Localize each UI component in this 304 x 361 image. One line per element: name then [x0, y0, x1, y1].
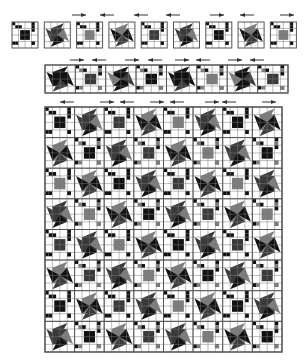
direction-arrow-icon	[205, 100, 219, 104]
direction-arrow-icon	[228, 58, 242, 62]
star-block	[75, 168, 105, 199]
ninepatch-block	[252, 138, 282, 169]
ninepatch-block	[75, 321, 105, 352]
star-block	[223, 138, 253, 169]
star-block	[104, 138, 134, 169]
star-block	[164, 260, 194, 291]
ninepatch-block	[193, 199, 223, 230]
star-block	[227, 65, 257, 93]
star-block	[223, 321, 253, 352]
ninepatch-block	[193, 321, 223, 352]
star-block	[134, 291, 164, 322]
ninepatch-block	[164, 107, 194, 138]
star-block	[193, 230, 223, 261]
ninepatch-block	[75, 65, 105, 93]
ninepatch-block	[270, 22, 296, 48]
star-block	[252, 291, 282, 322]
direction-arrow-icon	[148, 58, 162, 62]
ninepatch-block	[164, 291, 194, 322]
ninepatch-block	[206, 22, 232, 48]
direction-arrow-icon	[222, 100, 236, 104]
ninepatch-block	[223, 107, 253, 138]
top-row-blocks	[12, 22, 296, 48]
star-block	[109, 22, 135, 48]
ninepatch-block	[134, 260, 164, 291]
ninepatch-block	[104, 230, 134, 261]
ninepatch-block	[193, 138, 223, 169]
quilt-diagram	[0, 0, 304, 361]
ninepatch-block	[45, 230, 75, 261]
direction-arrow-icon	[92, 58, 106, 62]
star-block	[45, 65, 75, 93]
direction-arrow-icon	[72, 13, 86, 17]
sample-strip	[45, 65, 288, 93]
direction-arrow-icon	[100, 13, 114, 17]
star-block	[134, 168, 164, 199]
direction-arrow-icon	[262, 100, 276, 104]
direction-arrow-icon	[175, 58, 189, 62]
direction-arrow-icon	[100, 100, 114, 104]
star-block	[223, 199, 253, 230]
ninepatch-block	[12, 22, 38, 48]
ninepatch-block	[258, 65, 288, 93]
direction-arrow-icon	[120, 100, 134, 104]
star-block	[193, 107, 223, 138]
ninepatch-block	[193, 260, 223, 291]
star-block	[106, 65, 136, 93]
ninepatch-block	[197, 65, 227, 93]
star-block	[134, 230, 164, 261]
star-block	[238, 22, 264, 48]
star-block	[252, 107, 282, 138]
star-block	[104, 199, 134, 230]
star-block	[193, 168, 223, 199]
star-block	[174, 22, 200, 48]
direction-arrow-icon	[125, 58, 139, 62]
ninepatch-block	[164, 230, 194, 261]
direction-arrow-icon	[280, 13, 294, 17]
ninepatch-block	[223, 291, 253, 322]
star-block	[252, 168, 282, 199]
star-block	[75, 107, 105, 138]
ninepatch-block	[223, 230, 253, 261]
ninepatch-block	[75, 260, 105, 291]
ninepatch-block	[252, 199, 282, 230]
ninepatch-block	[164, 168, 194, 199]
ninepatch-block	[136, 65, 166, 93]
star-block	[164, 138, 194, 169]
ninepatch-block	[134, 138, 164, 169]
direction-arrow-icon	[170, 100, 184, 104]
ninepatch-block	[134, 321, 164, 352]
direction-arrow-icon	[60, 100, 74, 104]
direction-arrow-icon	[240, 13, 254, 17]
ninepatch-block	[75, 138, 105, 169]
star-block	[104, 260, 134, 291]
direction-arrow-icon	[250, 58, 264, 62]
direction-arrow-icon	[210, 13, 224, 17]
star-block	[164, 321, 194, 352]
star-block	[252, 230, 282, 261]
star-block	[167, 65, 197, 93]
ninepatch-block	[104, 107, 134, 138]
ninepatch-block	[252, 260, 282, 291]
direction-arrow-icon	[70, 58, 84, 62]
star-block	[44, 22, 70, 48]
star-block	[104, 321, 134, 352]
ninepatch-block	[104, 168, 134, 199]
star-block	[193, 291, 223, 322]
direction-arrow-icon	[196, 58, 210, 62]
ninepatch-block	[252, 321, 282, 352]
star-block	[134, 107, 164, 138]
ninepatch-block	[141, 22, 167, 48]
ninepatch-block	[223, 168, 253, 199]
ninepatch-block	[104, 291, 134, 322]
direction-arrow-icon	[134, 13, 148, 17]
star-block	[164, 199, 194, 230]
star-block	[223, 260, 253, 291]
star-block	[45, 199, 75, 230]
quilt-pattern-canvas	[0, 0, 304, 361]
direction-arrow-icon	[166, 13, 180, 17]
star-block	[45, 260, 75, 291]
star-block	[75, 230, 105, 261]
star-block	[45, 138, 75, 169]
star-block	[45, 321, 75, 352]
